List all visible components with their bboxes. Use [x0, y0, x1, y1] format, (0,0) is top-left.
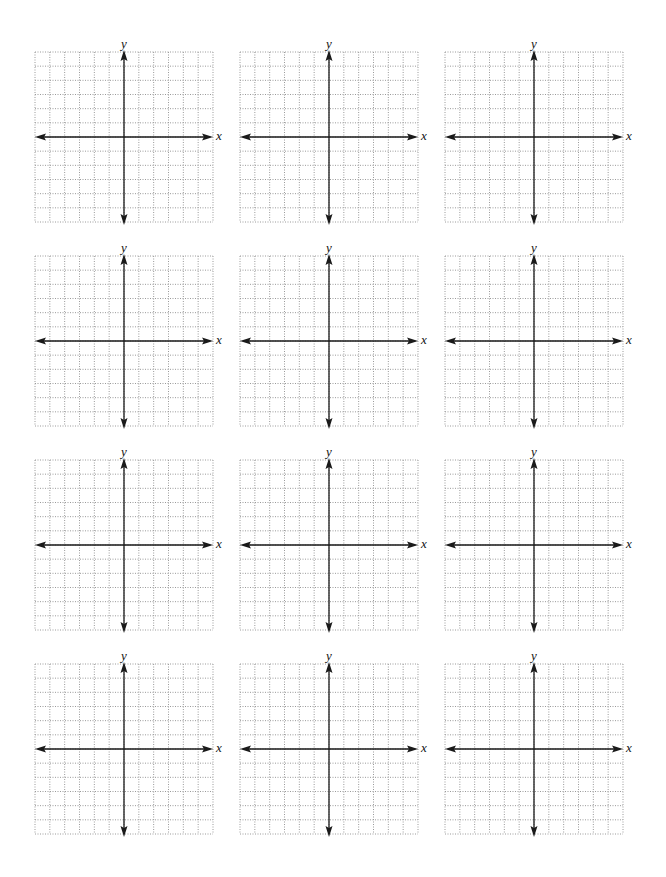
- grid-graphic: [240, 256, 418, 426]
- coordinate-grid-panel: yx: [445, 664, 645, 854]
- grid-graphic: [445, 664, 623, 834]
- x-axis-label: x: [626, 537, 632, 550]
- grid-graphic: [35, 52, 213, 222]
- coordinate-grid-panel: yx: [240, 256, 440, 446]
- coordinate-grid-panel: yx: [35, 460, 235, 650]
- coordinate-grid-panel: yx: [35, 256, 235, 446]
- x-axis-label: x: [626, 741, 632, 754]
- y-axis-label: y: [121, 649, 127, 662]
- coordinate-grid-panel: yx: [35, 52, 235, 242]
- y-axis-label: y: [531, 37, 537, 50]
- coordinate-grid-panel: yx: [240, 52, 440, 242]
- x-axis-label: x: [216, 129, 222, 142]
- y-axis-label: y: [326, 241, 332, 254]
- coordinate-grid-panel: yx: [240, 664, 440, 854]
- grid-graphic: [240, 460, 418, 630]
- x-axis-label: x: [216, 537, 222, 550]
- x-axis-label: x: [421, 741, 427, 754]
- y-axis-label: y: [121, 241, 127, 254]
- grid-graphic: [445, 52, 623, 222]
- grid-graphic: [35, 460, 213, 630]
- grid-graphic: [35, 664, 213, 834]
- x-axis-label: x: [421, 537, 427, 550]
- x-axis-label: x: [421, 333, 427, 346]
- grid-graphic: [35, 256, 213, 426]
- grid-graphic: [240, 664, 418, 834]
- coordinate-grid-panel: yx: [445, 256, 645, 446]
- y-axis-label: y: [326, 649, 332, 662]
- coordinate-grid-panel: yx: [35, 664, 235, 854]
- y-axis-label: y: [531, 649, 537, 662]
- y-axis-label: y: [326, 37, 332, 50]
- x-axis-label: x: [216, 741, 222, 754]
- y-axis-label: y: [531, 445, 537, 458]
- y-axis-label: y: [121, 445, 127, 458]
- coordinate-grid-panel: yx: [445, 460, 645, 650]
- coordinate-grid-panel: yx: [240, 460, 440, 650]
- y-axis-label: y: [326, 445, 332, 458]
- x-axis-label: x: [626, 129, 632, 142]
- grid-graphic: [240, 52, 418, 222]
- x-axis-label: x: [421, 129, 427, 142]
- grid-graphic: [445, 460, 623, 630]
- y-axis-label: y: [121, 37, 127, 50]
- grid-graphic: [445, 256, 623, 426]
- x-axis-label: x: [626, 333, 632, 346]
- y-axis-label: y: [531, 241, 537, 254]
- coordinate-grid-panel: yx: [445, 52, 645, 242]
- x-axis-label: x: [216, 333, 222, 346]
